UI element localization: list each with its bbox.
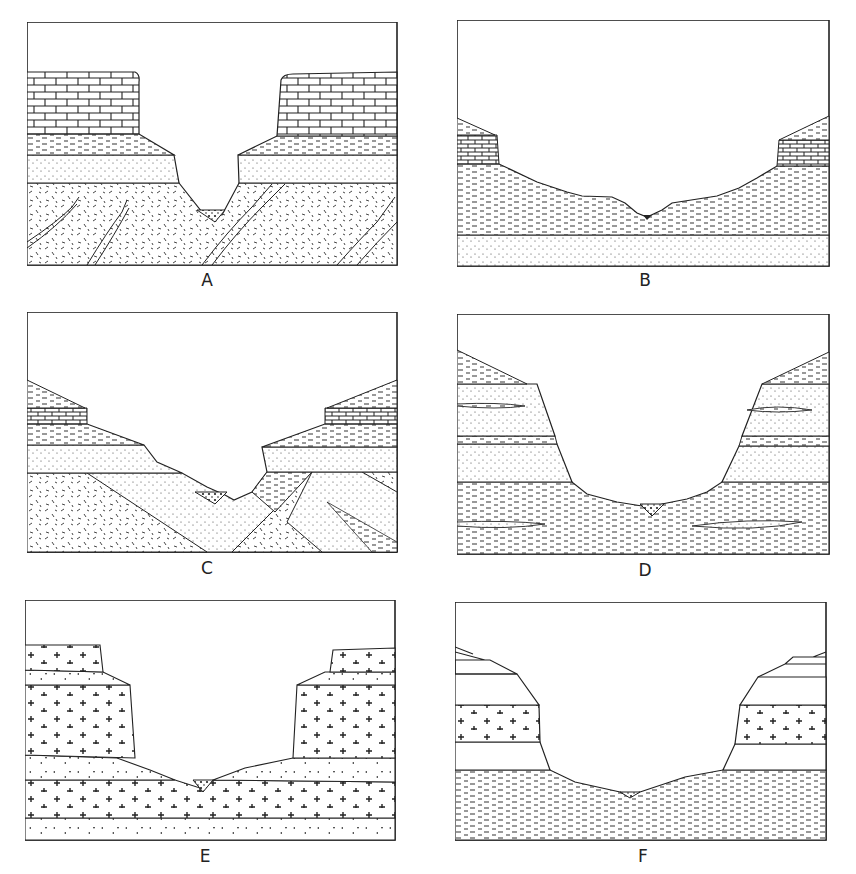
cross-section-a (27, 22, 399, 267)
panel-label-b: B (630, 270, 660, 290)
panel-label-d: D (630, 560, 660, 580)
panel-label-a: A (192, 270, 222, 290)
cross-section-d (457, 314, 831, 556)
panel-b (457, 20, 831, 268)
cross-section-b (457, 20, 831, 268)
panel-label-c: C (192, 558, 222, 578)
panel-d (457, 314, 831, 556)
panel-a (27, 22, 399, 267)
panel-c (27, 312, 399, 554)
cross-section-e (25, 600, 397, 842)
cross-section-f (455, 602, 829, 844)
panel-f (455, 602, 829, 844)
panel-label-f: F (628, 846, 658, 866)
panel-e (25, 600, 397, 842)
cross-section-c (27, 312, 399, 554)
panel-label-e: E (190, 846, 220, 866)
